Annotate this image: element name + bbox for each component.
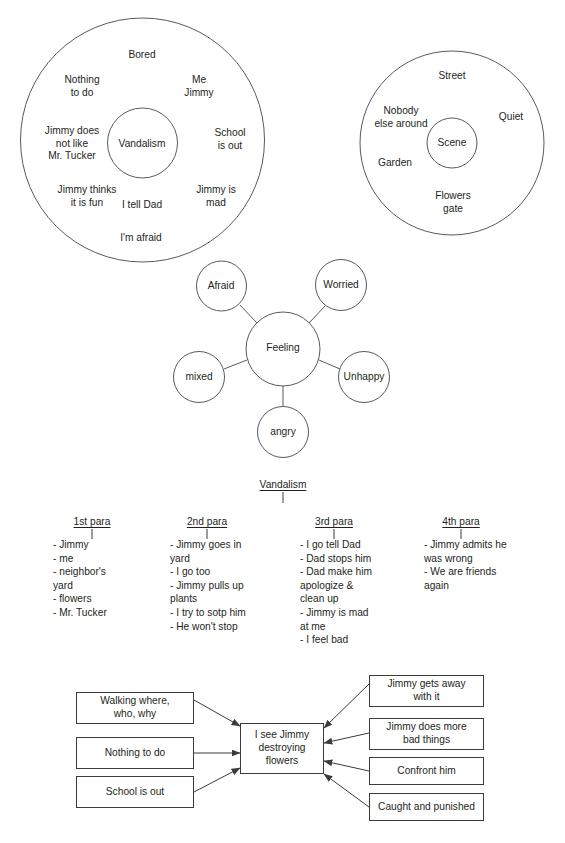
outline-column-heading-3: 3rd para <box>315 516 353 527</box>
feeling-node-label-mixed: mixed <box>185 371 212 384</box>
flow-center-box: I see Jimmy destroying flowers <box>240 723 324 774</box>
feeling-node-label-worried: Worried <box>323 279 358 292</box>
vandalism-outer-label-jimmy-is-mad: Jimmy is mad <box>196 184 236 209</box>
vandalism-outer-label-nothing-to-do: Nothing to do <box>64 74 99 99</box>
outline-column-items-2: - Jimmy goes in yard - I go too - Jimmy … <box>170 538 290 633</box>
feeling-center-label: Feeling <box>266 342 299 355</box>
vandalism-outer-label-jimmy-thinks-fun: Jimmy thinks it is fun <box>58 184 117 209</box>
worksheet-page: Vandalism Bored Nothing to do Me Jimmy J… <box>0 0 565 843</box>
scene-outer-label-garden: Garden <box>378 157 412 170</box>
feeling-node-label-afraid: Afraid <box>208 280 235 293</box>
outline-column-items-3: - I go tell Dad - Dad stops him - Dad ma… <box>300 538 420 647</box>
outline-column-items-4: - Jimmy admits he was wrong - We are fri… <box>424 538 549 592</box>
vandalism-outer-label-me-jimmy: Me Jimmy <box>184 74 213 99</box>
vandalism-outer-label-i-tell-dad: I tell Dad <box>122 199 162 212</box>
scene-outer-label-quiet: Quiet <box>499 111 523 124</box>
outline-column-heading-4: 4th para <box>442 516 479 527</box>
feeling-node-label-unhappy: Unhappy <box>344 371 385 384</box>
vandalism-outer-label-bored: Bored <box>128 49 155 62</box>
vandalism-outer-label-school-is-out: School is out <box>214 127 245 152</box>
scene-outer-label-flowers-gate: Flowers gate <box>435 190 471 215</box>
flow-left-box-3: School is out <box>76 776 194 808</box>
flow-arrows-left <box>194 700 240 792</box>
flow-right-box-2: Jimmy does more bad things <box>369 718 484 750</box>
flow-right-box-1: Jimmy gets away with it <box>369 675 484 707</box>
flow-right-box-4: Caught and punished <box>369 793 484 821</box>
feeling-node-label-angry: angry <box>270 426 295 439</box>
outline-column-heading-2: 2nd para <box>187 516 227 527</box>
outline-column-heading-1: 1st para <box>74 516 111 527</box>
flow-right-box-3: Confront him <box>369 757 484 785</box>
scene-outer-label-street: Street <box>438 70 465 83</box>
vandalism-center-label: Vandalism <box>119 138 166 151</box>
scene-center-label: Scene <box>438 137 467 150</box>
vandalism-outer-label-mr-tucker: Jimmy does not like Mr. Tucker <box>45 125 99 163</box>
flow-left-box-2: Nothing to do <box>76 737 194 769</box>
scene-outer-label-nobody-else-around: Nobody else around <box>374 105 427 130</box>
flow-left-box-1: Walking where, who, why <box>76 692 194 724</box>
vandalism-outer-label-im-afraid: I'm afraid <box>120 232 162 245</box>
flow-arrows-right <box>324 684 369 807</box>
outline-topic-heading: Vandalism <box>260 479 307 490</box>
outline-column-items-1: - Jimmy - me - neighbor's yard - flowers… <box>53 538 163 620</box>
